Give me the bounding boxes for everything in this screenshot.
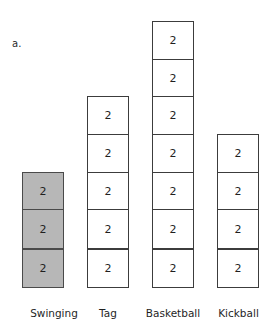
bar-cell: 2 bbox=[217, 209, 259, 248]
bar-cell: 2 bbox=[152, 96, 194, 135]
bar-cell: 2 bbox=[152, 21, 194, 60]
category-label-tag: Tag bbox=[82, 306, 134, 320]
bar-cell: 2 bbox=[22, 172, 64, 211]
bar-cell: 2 bbox=[87, 172, 129, 211]
bar-cell: 2 bbox=[87, 96, 129, 135]
bar-cell: 2 bbox=[152, 172, 194, 211]
pictograph-figure: a. 2 2 2 2 2 2 2 2 2 2 2 2 2 2 2 2 2 2 2… bbox=[0, 0, 269, 323]
category-label-basketball: Basketball bbox=[132, 306, 214, 320]
bar-column-basketball: 2 2 2 2 2 2 2 bbox=[152, 22, 194, 288]
bar-cell: 2 bbox=[87, 209, 129, 248]
bar-cell: 2 bbox=[87, 249, 129, 288]
bar-cell: 2 bbox=[152, 209, 194, 248]
bar-cell: 2 bbox=[152, 249, 194, 288]
bar-cell: 2 bbox=[22, 209, 64, 248]
bar-column-swinging: 2 2 2 bbox=[22, 173, 64, 288]
bar-column-tag: 2 2 2 2 2 bbox=[87, 98, 129, 288]
bar-cell: 2 bbox=[22, 249, 64, 288]
bar-cell: 2 bbox=[217, 172, 259, 211]
bar-cell: 2 bbox=[152, 59, 194, 98]
category-label-kickball: Kickball bbox=[208, 306, 269, 320]
bar-column-kickball: 2 2 2 2 bbox=[217, 136, 259, 288]
bar-cell: 2 bbox=[87, 134, 129, 173]
bar-cell: 2 bbox=[217, 134, 259, 173]
bar-cell: 2 bbox=[152, 134, 194, 173]
bar-cell: 2 bbox=[217, 249, 259, 288]
part-letter: a. bbox=[12, 38, 22, 50]
